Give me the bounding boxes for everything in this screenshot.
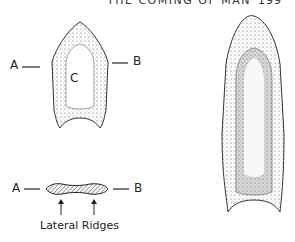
cross-section-caption: Lateral Ridges bbox=[40, 219, 119, 232]
arrow-left-ridge bbox=[57, 198, 65, 216]
cross-label-a: A bbox=[12, 181, 20, 195]
line-a bbox=[22, 66, 42, 68]
line-b bbox=[112, 62, 132, 64]
arrow-right-ridge bbox=[90, 198, 98, 216]
page-number: 199 bbox=[258, 0, 282, 7]
right-projectile-point-drawing bbox=[218, 14, 288, 214]
label-c: C bbox=[70, 71, 78, 85]
cross-line-b bbox=[113, 188, 131, 190]
left-projectile-point-drawing bbox=[40, 20, 120, 135]
label-a: A bbox=[10, 58, 18, 72]
label-b: B bbox=[133, 54, 141, 68]
cross-line-a bbox=[24, 188, 42, 190]
cross-label-b: B bbox=[134, 181, 142, 195]
running-head: THE COMING OF MAN bbox=[107, 0, 251, 7]
cross-section-shape bbox=[44, 181, 110, 197]
